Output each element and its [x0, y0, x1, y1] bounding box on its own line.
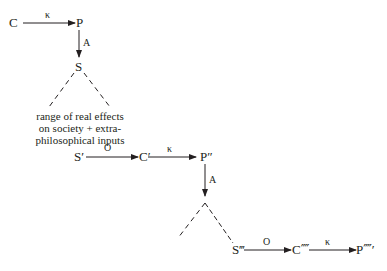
- node-p-quintuple-prime: P⁗′: [356, 243, 375, 256]
- edge-label-o-1: O: [104, 143, 111, 153]
- edge-label-kappa-3: κ: [325, 237, 330, 247]
- edge-label-kappa-1: κ: [45, 10, 50, 20]
- dashed-left-1: [49, 73, 74, 107]
- edge-label-kappa-2: κ: [167, 144, 172, 154]
- edge-label-o-2: O: [263, 237, 270, 247]
- node-s-prime: S′: [74, 150, 84, 163]
- annotation-line-1: range of real effects: [30, 110, 130, 122]
- node-p-double-prime: P″: [200, 150, 213, 163]
- node-c-prime: C′: [139, 150, 151, 163]
- edge-label-a-2: A: [209, 175, 216, 185]
- node-p: P: [76, 16, 83, 29]
- edge-label-a-1: A: [83, 38, 90, 48]
- dashed-left-2: [178, 203, 205, 238]
- node-s: S: [75, 60, 82, 73]
- dashed-right-1: [84, 73, 110, 107]
- node-c: C: [9, 16, 18, 29]
- annotation-line-3: philosophical inputs: [30, 134, 130, 146]
- annotation-line-2: on society + extra-: [30, 122, 130, 134]
- solid-right-2: [205, 203, 233, 243]
- node-s-triple-prime: S‴: [232, 243, 245, 256]
- node-c-quadruple-prime: C⁗: [292, 243, 309, 256]
- annotation-real-effects: range of real effects on society + extra…: [30, 110, 130, 146]
